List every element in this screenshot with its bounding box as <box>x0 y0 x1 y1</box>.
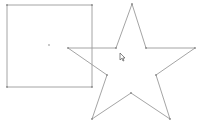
star-shape[interactable] <box>67 3 196 120</box>
star-vertex-handles[interactable] <box>67 3 196 120</box>
vertex-handle[interactable] <box>194 47 196 49</box>
vertex-handle[interactable] <box>6 4 8 6</box>
arrow-pointer-icon <box>120 53 125 61</box>
vertex-handle[interactable] <box>155 74 157 76</box>
vertex-handle[interactable] <box>91 4 93 6</box>
vertex-handle[interactable] <box>67 47 69 49</box>
vertex-handle[interactable] <box>106 74 108 76</box>
star-outline[interactable] <box>68 4 195 119</box>
vertex-handle[interactable] <box>115 47 117 49</box>
drawing-canvas[interactable] <box>0 0 198 127</box>
square-outline[interactable] <box>7 5 92 87</box>
vertex-handle[interactable] <box>91 118 93 120</box>
vertex-handle[interactable] <box>145 47 147 49</box>
square-shape[interactable] <box>6 4 93 88</box>
vertex-handle[interactable] <box>6 86 8 88</box>
vertex-handle[interactable] <box>169 118 171 120</box>
vertex-handle[interactable] <box>130 92 132 94</box>
square-center-handle[interactable] <box>48 44 50 46</box>
vertex-handle[interactable] <box>91 86 93 88</box>
square-vertex-handles[interactable] <box>6 4 93 88</box>
vertex-handle[interactable] <box>131 3 133 5</box>
